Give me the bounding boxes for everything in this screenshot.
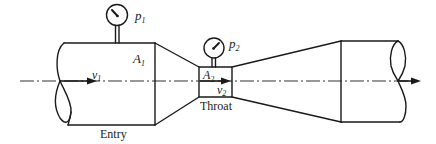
diverging-cone: [232, 41, 341, 122]
exit-pipe: [341, 41, 406, 122]
venturi-meter-diagram: p1 p2 A1 A2 v1 v2 Entry Throat: [0, 0, 436, 144]
label-throat: Throat: [200, 99, 233, 113]
label-entry: Entry: [100, 127, 127, 141]
arrow-v2-head: [221, 78, 231, 85]
label-A1: A1: [132, 51, 145, 68]
converging-cone: [155, 43, 199, 125]
arrow-exit-head: [411, 78, 421, 85]
label-v1: v1: [92, 68, 101, 83]
gauge-2-hub: [212, 47, 215, 50]
pressure-gauge-1: [107, 5, 128, 44]
label-v2: v2: [217, 83, 226, 98]
venturi-svg: p1 p2 A1 A2 v1 v2 Entry Throat: [0, 0, 436, 144]
gauge-1-hub: [116, 15, 119, 18]
label-p2: p2: [228, 36, 240, 53]
label-p1: p1: [134, 8, 146, 25]
label-A2: A2: [202, 68, 214, 84]
pressure-gauge-2: [204, 38, 224, 67]
